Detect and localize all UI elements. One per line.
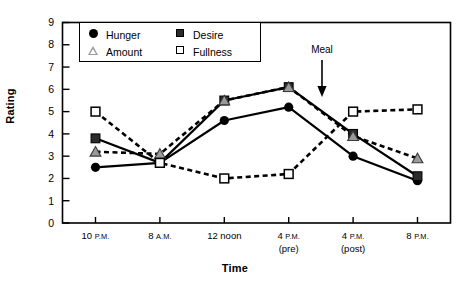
y-tick-label-6: 6 (38, 84, 54, 94)
marker-fullness-2 (220, 174, 229, 183)
y-axis-title: Rating (4, 76, 16, 136)
y-tick-label-2: 2 (38, 173, 54, 183)
marker-fullness-4 (349, 107, 358, 116)
y-tick-label-4: 4 (38, 129, 54, 139)
x-tick-sublabel-4: (post) (308, 243, 398, 254)
legend-icon-fullness (175, 45, 187, 57)
chart-figure: Rating Time 9 8 7 6 5 4 3 2 1 0 10 P.M.8… (0, 0, 467, 287)
legend-label-amount: Amount (106, 46, 142, 58)
y-tick-label-3: 3 (38, 151, 54, 161)
y-tick-label-5: 5 (38, 106, 54, 116)
marker-hunger-4 (349, 152, 358, 161)
legend-icon-amount (88, 45, 100, 57)
legend-label-hunger: Hunger (106, 29, 140, 41)
marker-fullness-3 (284, 170, 293, 179)
marker-desire-5 (413, 172, 422, 181)
legend-label-fullness: Fullness (193, 46, 232, 58)
marker-desire-0 (91, 134, 100, 143)
legend-label-desire: Desire (193, 29, 223, 41)
y-tick-label-7: 7 (38, 62, 54, 72)
legend-icon-desire (175, 28, 187, 40)
marker-hunger-0 (91, 163, 100, 172)
x-axis-title: Time (195, 262, 275, 274)
marker-fullness-5 (413, 105, 422, 114)
legend-icon-hunger (88, 28, 100, 40)
chart-legend: Hunger Desire Amount Fullness (79, 22, 261, 62)
meal-annotation-label: Meal (292, 44, 352, 55)
marker-fullness-0 (91, 107, 100, 116)
y-tick-label-8: 8 (38, 39, 54, 49)
marker-hunger-3 (284, 103, 293, 112)
y-tick-label-0: 0 (38, 218, 54, 228)
y-tick-label-1: 1 (38, 196, 54, 206)
marker-fullness-1 (156, 158, 165, 167)
x-tick-label-5: 8 P.M. (373, 230, 463, 242)
y-tick-label-9: 9 (38, 17, 54, 27)
marker-hunger-2 (220, 116, 229, 125)
